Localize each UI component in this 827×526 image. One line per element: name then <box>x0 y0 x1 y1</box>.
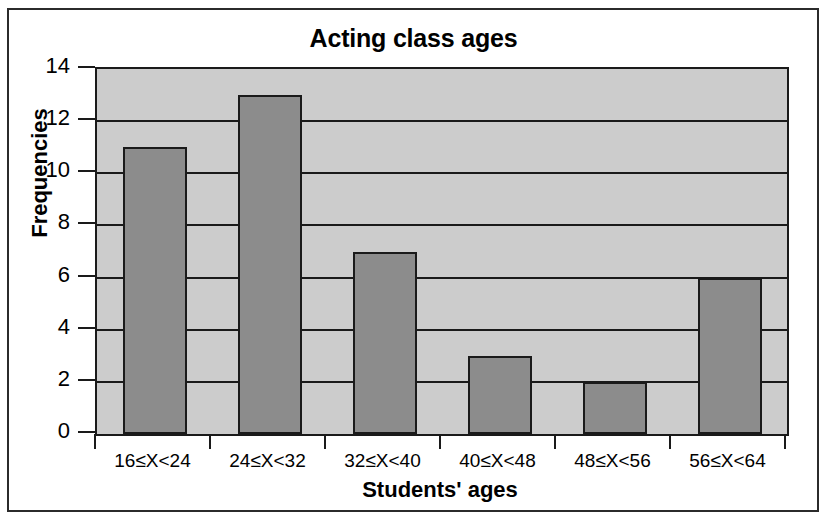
y-tick-mark <box>78 170 95 172</box>
y-tick-label: 0 <box>24 420 70 442</box>
x-tick-label: 40≤X<48 <box>440 450 555 472</box>
x-axis-title: Students' ages <box>95 477 785 503</box>
chart-title: Acting class ages <box>0 24 827 53</box>
y-tick-label: 12 <box>24 107 70 129</box>
plot-area <box>95 67 789 436</box>
y-axis-tick-labels: 14121086420 <box>24 0 70 526</box>
y-tick-label: 4 <box>24 316 70 338</box>
bar[interactable] <box>238 95 302 434</box>
y-tick-mark <box>78 379 95 381</box>
x-tick-mark <box>94 434 96 449</box>
bar-slot <box>212 69 327 434</box>
x-tick-label: 16≤X<24 <box>95 450 210 472</box>
x-tick-mark <box>554 434 556 449</box>
x-tick-mark <box>784 434 786 449</box>
bar[interactable] <box>468 356 532 434</box>
x-tick-mark <box>669 434 671 449</box>
x-tick-label: 48≤X<56 <box>555 450 670 472</box>
y-tick-label: 14 <box>24 55 70 77</box>
y-tick-label: 6 <box>24 264 70 286</box>
y-tick-mark <box>78 222 95 224</box>
x-tick-label: 32≤X<40 <box>325 450 440 472</box>
y-tick-label: 2 <box>24 368 70 390</box>
bar-slot <box>557 69 672 434</box>
bar-slot <box>442 69 557 434</box>
y-tick-mark <box>78 118 95 120</box>
y-tick-mark <box>78 275 95 277</box>
y-tick-mark <box>78 66 95 68</box>
y-tick-mark <box>78 431 95 433</box>
x-tick-label: 24≤X<32 <box>210 450 325 472</box>
x-tick-mark <box>439 434 441 449</box>
bar[interactable] <box>583 382 647 434</box>
x-tick-mark <box>324 434 326 449</box>
y-tick-label: 10 <box>24 159 70 181</box>
bar[interactable] <box>123 147 187 434</box>
x-tick-mark <box>209 434 211 449</box>
bar-slot <box>327 69 442 434</box>
chart-figure: Acting class ages Frequencies 1412108642… <box>0 0 827 526</box>
bars-container <box>97 69 787 434</box>
bar-slot <box>97 69 212 434</box>
x-tick-label: 56≤X<64 <box>670 450 785 472</box>
bar-slot <box>672 69 787 434</box>
y-tick-mark <box>78 327 95 329</box>
x-axis-tick-labels: 16≤X<2424≤X<3232≤X<4040≤X<4848≤X<5656≤X<… <box>95 450 785 472</box>
bar[interactable] <box>353 252 417 435</box>
bar[interactable] <box>698 278 762 434</box>
y-tick-label: 8 <box>24 211 70 233</box>
